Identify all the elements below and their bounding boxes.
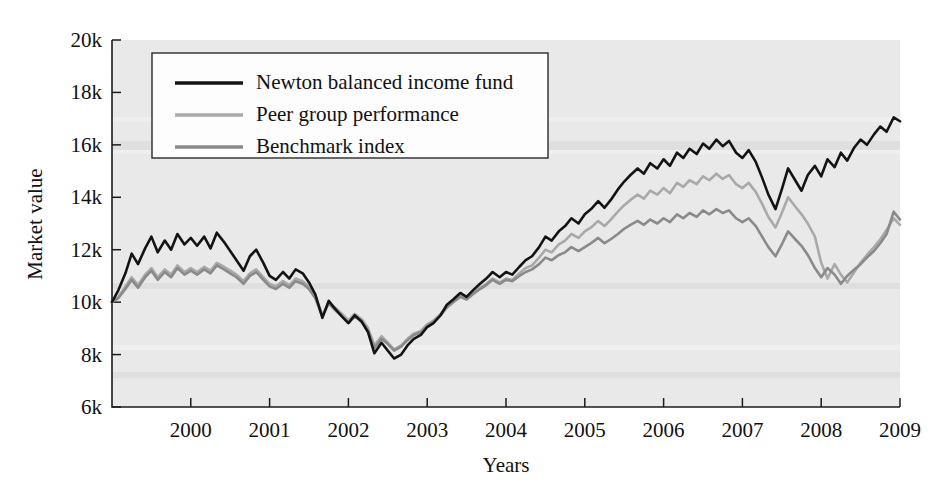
y-tick-label: 6k: [81, 395, 103, 419]
y-axis-title: Market value: [23, 168, 47, 279]
x-tick-label: 2001: [249, 418, 291, 442]
chart-container: 6k8k10k12k14k16k18k20k 20002001200220032…: [0, 0, 938, 487]
x-tick-label: 2008: [800, 418, 842, 442]
x-axis-title: Years: [483, 453, 530, 477]
legend-label-3: Benchmark index: [256, 134, 405, 158]
x-tick-label: 2002: [327, 418, 369, 442]
x-tick-label: 2009: [879, 418, 921, 442]
x-tick-label: 2005: [564, 418, 606, 442]
y-tick-label: 16k: [71, 133, 103, 157]
y-tick-label: 18k: [71, 80, 103, 104]
x-tick-label: 2006: [643, 418, 685, 442]
y-tick-label: 14k: [71, 185, 103, 209]
y-tick-label: 10k: [71, 290, 103, 314]
chart-legend: Newton balanced income fundPeer group pe…: [152, 53, 548, 158]
legend-label-1: Newton balanced income fund: [256, 70, 514, 94]
x-tick-label: 2000: [170, 418, 212, 442]
market-value-line-chart: 6k8k10k12k14k16k18k20k 20002001200220032…: [0, 0, 938, 487]
x-tick-label: 2003: [406, 418, 448, 442]
legend-label-2: Peer group performance: [256, 102, 459, 126]
y-tick-label: 12k: [71, 238, 103, 262]
y-tick-label: 20k: [71, 28, 103, 52]
y-tick-label: 8k: [81, 343, 103, 367]
x-tick-label: 2007: [721, 418, 763, 442]
x-tick-label: 2004: [485, 418, 528, 442]
